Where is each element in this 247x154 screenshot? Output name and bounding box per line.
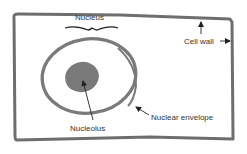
label-nucleus: Nucleus [75, 13, 104, 22]
nucleus-brace [65, 27, 118, 30]
nuclear-envelope-arrow [136, 107, 149, 115]
label-nucleolus: Nucleolus [70, 124, 105, 133]
label-cell-wall: Cell wall [184, 37, 214, 46]
cell-diagram: Nucleus Cell wall Nuclear envelope Nucle… [0, 0, 247, 154]
label-nuclear-envelope: Nuclear envelope [151, 113, 214, 122]
nucleolus [62, 58, 103, 96]
